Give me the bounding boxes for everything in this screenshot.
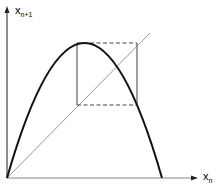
x-axis-arrow-icon [191, 176, 198, 181]
x-axis-label: xn [203, 171, 212, 184]
cobweb-diagram: xn+1 xn [0, 0, 220, 185]
parabola-curve [7, 43, 162, 178]
y-axis-arrow-icon [5, 6, 10, 13]
diagram-canvas [0, 0, 220, 185]
y-axis-label-sub: n+1 [21, 11, 33, 18]
x-axis-label-sub: n [209, 177, 213, 184]
y-axis-label: xn+1 [15, 5, 32, 18]
